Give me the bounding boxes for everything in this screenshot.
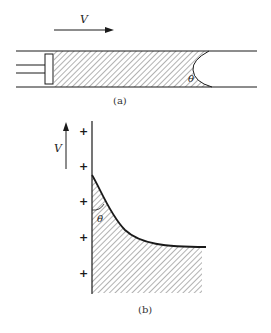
part-a: V θ (a): [16, 13, 257, 106]
plus-sign: +: [79, 125, 88, 138]
caption-a: (a): [113, 95, 127, 106]
angle-label-b: θ: [97, 213, 103, 224]
plus-sign: +: [79, 160, 88, 173]
plus-sign: +: [79, 267, 88, 280]
velocity-label-a: V: [80, 13, 89, 26]
plus-sign: +: [79, 231, 88, 244]
velocity-arrow-b: [63, 122, 69, 169]
plus-sign: +: [79, 195, 88, 208]
caption-b: (b): [138, 304, 152, 315]
diagram-canvas: V θ (a) V + + + + +: [0, 0, 271, 333]
piston: [16, 54, 53, 84]
part-b: V + + + + + θ (b): [54, 121, 206, 315]
velocity-arrow-a: [54, 27, 114, 33]
angle-label-a: θ: [188, 73, 194, 84]
liquid-region-b: [92, 175, 206, 293]
velocity-label-b: V: [54, 142, 63, 155]
